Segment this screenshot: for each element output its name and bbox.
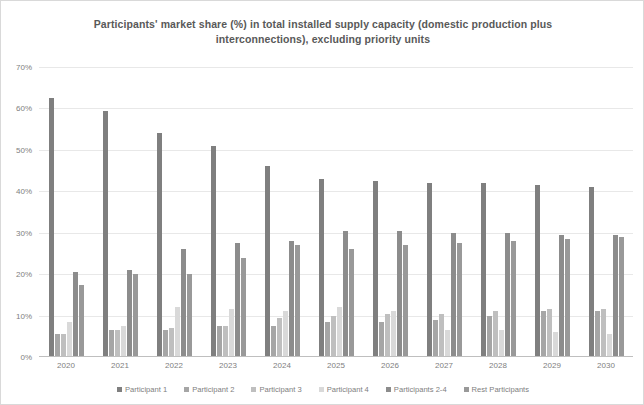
bar xyxy=(505,233,510,357)
bar xyxy=(535,185,540,357)
bar xyxy=(283,311,288,357)
bar xyxy=(211,146,216,357)
bar xyxy=(217,326,222,357)
bar xyxy=(277,318,282,357)
x-axis-tick-label: 2022 xyxy=(147,361,201,375)
bar xyxy=(343,231,348,357)
y-axis-tick-label: 20% xyxy=(0,270,32,279)
bar-group xyxy=(201,67,255,357)
bar xyxy=(499,330,504,357)
bar xyxy=(445,330,450,357)
bar xyxy=(493,311,498,357)
bar xyxy=(157,133,162,357)
bar-group xyxy=(39,67,93,357)
bar xyxy=(487,316,492,357)
bar xyxy=(607,334,612,357)
legend-item[interactable]: Rest Participants xyxy=(464,385,529,394)
bar xyxy=(229,309,234,357)
legend-swatch-icon xyxy=(184,387,189,392)
legend-label: Participant 4 xyxy=(327,385,369,394)
bar xyxy=(559,235,564,357)
bar xyxy=(397,231,402,357)
bar-group xyxy=(525,67,579,357)
bar xyxy=(67,322,72,357)
x-axis-tick-label: 2021 xyxy=(93,361,147,375)
legend-item[interactable]: Participant 4 xyxy=(319,385,369,394)
chart-legend: Participant 1Participant 2Participant 3P… xyxy=(1,385,644,394)
legend-swatch-icon xyxy=(319,387,324,392)
legend-label: Participant 2 xyxy=(192,385,234,394)
bar xyxy=(103,111,108,358)
chart-title: Participants' market share (%) in total … xyxy=(63,17,583,47)
x-axis-tick-label: 2029 xyxy=(525,361,579,375)
x-axis-tick-label: 2030 xyxy=(579,361,633,375)
bar xyxy=(619,237,624,357)
bar xyxy=(235,243,240,357)
bar xyxy=(319,179,324,357)
bar xyxy=(79,285,84,358)
legend-label: Rest Participants xyxy=(472,385,529,394)
legend-item[interactable]: Participant 1 xyxy=(117,385,167,394)
legend-item[interactable]: Participant 2 xyxy=(184,385,234,394)
x-axis-tick-label: 2020 xyxy=(39,361,93,375)
x-axis-tick-label: 2023 xyxy=(201,361,255,375)
bar xyxy=(121,326,126,357)
bar xyxy=(481,183,486,357)
bar xyxy=(439,314,444,358)
bar xyxy=(511,241,516,357)
legend-label: Participant 1 xyxy=(125,385,167,394)
y-axis-tick-label: 0% xyxy=(0,353,32,362)
bar xyxy=(565,239,570,357)
bar xyxy=(553,332,558,357)
bar xyxy=(427,183,432,357)
bar-group xyxy=(417,67,471,357)
bar xyxy=(325,322,330,357)
x-axis-line xyxy=(39,356,633,357)
bar-group xyxy=(363,67,417,357)
bar xyxy=(271,326,276,357)
bar xyxy=(337,307,342,357)
bar xyxy=(187,274,192,357)
bar-group xyxy=(147,67,201,357)
bar xyxy=(181,249,186,357)
bar xyxy=(547,309,552,357)
bar-groups xyxy=(39,67,633,357)
bar xyxy=(391,311,396,357)
bar-group xyxy=(579,67,633,357)
y-axis-tick-label: 40% xyxy=(0,187,32,196)
bar xyxy=(379,322,384,357)
bar xyxy=(73,272,78,357)
legend-item[interactable]: Participant 3 xyxy=(251,385,301,394)
bar-group xyxy=(255,67,309,357)
bar xyxy=(457,243,462,357)
x-axis-tick-label: 2025 xyxy=(309,361,363,375)
bar xyxy=(541,311,546,357)
y-axis-tick-label: 70% xyxy=(0,63,32,72)
x-axis-tick-label: 2027 xyxy=(417,361,471,375)
bar xyxy=(61,334,66,357)
bar xyxy=(127,270,132,357)
bar xyxy=(613,235,618,357)
bar xyxy=(163,330,168,357)
legend-swatch-icon xyxy=(386,387,391,392)
bar xyxy=(295,245,300,357)
bar xyxy=(115,330,120,357)
legend-swatch-icon xyxy=(117,387,122,392)
bar xyxy=(385,314,390,358)
bar xyxy=(451,233,456,357)
bar xyxy=(265,166,270,357)
bar xyxy=(349,249,354,357)
bar xyxy=(175,307,180,357)
legend-swatch-icon xyxy=(464,387,469,392)
plot-area xyxy=(39,67,633,357)
bar xyxy=(331,316,336,357)
legend-item[interactable]: Participants 2-4 xyxy=(386,385,447,394)
bar xyxy=(289,241,294,357)
y-axis-tick-label: 10% xyxy=(0,311,32,320)
bar-group xyxy=(93,67,147,357)
bar xyxy=(169,328,174,357)
legend-swatch-icon xyxy=(251,387,256,392)
y-axis-tick-label: 30% xyxy=(0,228,32,237)
bar xyxy=(601,309,606,357)
bar xyxy=(55,334,60,357)
